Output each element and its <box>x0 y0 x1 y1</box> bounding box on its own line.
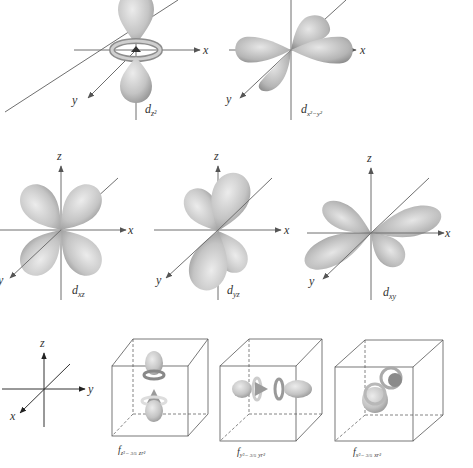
z-axis-label: z <box>213 149 219 163</box>
reference-axes: z y x <box>2 336 94 427</box>
x-axis-label: x <box>283 223 290 237</box>
x-axis-label: x <box>9 409 16 423</box>
orbital-fz3: fz³− 3/5zr² <box>112 339 208 456</box>
z-axis-label: z <box>366 151 372 165</box>
y-axis-label: y <box>155 273 162 287</box>
orbital-dx2-y2: x y dx²−y² <box>225 0 366 120</box>
orbital-label-dz2: dz² <box>145 102 157 118</box>
z-axis-label: z <box>56 149 62 163</box>
orbital-dz2: x y dz² <box>5 0 209 120</box>
orbital-fy3: fy³− 3/5yr² <box>220 339 322 458</box>
x-axis-label: x <box>127 223 134 237</box>
orbital-label-dx2-y2: dx²−y² <box>301 102 323 118</box>
y-axis-label: y <box>308 274 315 288</box>
x-axis-label: x <box>359 43 366 57</box>
lobe-lower <box>120 57 152 103</box>
orbital-label-fy3: fy³− 3/5yr² <box>237 446 265 458</box>
orbital-dxy: z x y dxy <box>299 151 451 301</box>
x-axis-label: x <box>202 43 209 57</box>
orbital-dyz: z x y dyz <box>154 149 290 300</box>
y-axis-label: y <box>225 92 232 106</box>
orbital-label-dxz: dxz <box>72 283 86 299</box>
z-axis-label: z <box>39 336 45 350</box>
y-axis-label: y <box>87 382 94 396</box>
orbital-label-dxy: dxy <box>383 285 397 301</box>
orbital-label-fz3: fz³− 3/5zr² <box>118 444 146 456</box>
x-axis-label: x <box>444 226 451 240</box>
orbital-label-dyz: dyz <box>227 283 241 299</box>
orbital-dxz: z x y dxz <box>0 149 134 300</box>
y-axis-label: y <box>71 93 78 107</box>
y-axis-label: y <box>0 273 4 287</box>
orbital-label-fx3: fx³− 3/5xr² <box>353 446 381 458</box>
orbital-figure: x y dz² x y dx²−y² z x y d <box>0 0 473 468</box>
orbital-fx3: fx³− 3/5xr² <box>335 340 443 458</box>
